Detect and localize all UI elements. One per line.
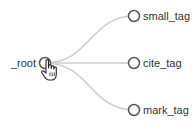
tree-diagram: _root small_tag cite_tag mark_tag: [0, 0, 194, 129]
links: [45, 16, 134, 110]
node-cite-tag-label: cite_tag: [143, 57, 182, 69]
node-small-tag-label: small_tag: [143, 10, 190, 22]
node-small-tag-circle[interactable]: [129, 11, 140, 22]
node-cite-tag[interactable]: cite_tag: [129, 57, 182, 69]
node-mark-tag-label: mark_tag: [143, 104, 189, 116]
node-mark-tag-circle[interactable]: [129, 105, 140, 116]
node-mark-tag[interactable]: mark_tag: [129, 104, 189, 116]
node-root-label: _root: [10, 57, 36, 69]
node-cite-tag-circle[interactable]: [129, 58, 140, 69]
link-root-mark-tag: [45, 63, 134, 110]
node-root[interactable]: _root: [10, 57, 51, 69]
node-small-tag[interactable]: small_tag: [129, 10, 191, 22]
link-root-small-tag: [45, 16, 134, 63]
